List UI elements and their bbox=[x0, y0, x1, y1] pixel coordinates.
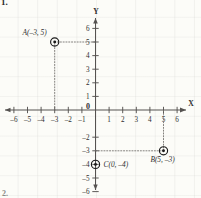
y-axis-ticks: 654321–2–3–4–5–6 bbox=[81, 25, 98, 196]
y-tick-label: –3 bbox=[81, 147, 90, 155]
point-A: A(–3, 5) bbox=[21, 28, 58, 46]
point-label-C: C(0, –4) bbox=[104, 160, 129, 169]
x-axis-arrow-right-icon bbox=[180, 108, 186, 113]
x-tick-label: –4 bbox=[37, 116, 46, 124]
x-tick-label: –1 bbox=[77, 116, 86, 124]
x-tick-label: 1 bbox=[107, 116, 111, 124]
point-marker-dot-B bbox=[162, 149, 165, 152]
coordinate-plane: X Y –6–5–4–3–2–1123456 654321–2–3–4–5–6 … bbox=[0, 0, 201, 198]
origin-label: 0 bbox=[86, 102, 90, 111]
y-tick-label: –2 bbox=[81, 134, 90, 142]
y-tick-label: 1 bbox=[86, 93, 90, 101]
y-axis-label: Y bbox=[93, 7, 99, 16]
point-label-A: A(–3, 5) bbox=[21, 28, 47, 37]
y-tick-label: –4 bbox=[81, 161, 90, 169]
x-axis-group: X bbox=[5, 99, 194, 112]
x-tick-label: –5 bbox=[23, 116, 32, 124]
x-tick-label: –3 bbox=[50, 116, 59, 124]
y-axis-arrow-down-icon bbox=[93, 185, 97, 190]
point-B: B(5, –3) bbox=[150, 147, 175, 164]
y-tick-label: 3 bbox=[86, 66, 90, 74]
y-tick-label: 6 bbox=[86, 25, 90, 33]
y-tick-label: –6 bbox=[81, 188, 90, 196]
point-marker-dot-A bbox=[53, 41, 56, 44]
y-axis-group: Y bbox=[93, 7, 99, 190]
y-tick-label: 2 bbox=[86, 79, 90, 87]
y-tick-label: 4 bbox=[86, 52, 90, 60]
x-tick-label: 4 bbox=[148, 116, 152, 124]
guide-lines bbox=[55, 42, 164, 151]
y-tick-label: 5 bbox=[86, 39, 90, 47]
point-marker-dot-C bbox=[94, 163, 97, 166]
x-tick-label: –6 bbox=[9, 116, 18, 124]
x-axis-label: X bbox=[188, 99, 194, 108]
y-tick-label: –5 bbox=[81, 175, 90, 183]
x-tick-label: 3 bbox=[135, 116, 139, 124]
x-axis-ticks: –6–5–4–3–2–1123456 bbox=[9, 107, 179, 124]
x-axis-arrow-left-icon bbox=[5, 108, 11, 112]
plotted-points: A(–3, 5)B(5, –3)C(0, –4) bbox=[21, 28, 175, 169]
x-tick-label: 2 bbox=[121, 116, 125, 124]
y-axis-arrow-up-icon bbox=[93, 18, 98, 24]
x-tick-label: –2 bbox=[64, 116, 73, 124]
x-tick-label: 6 bbox=[175, 116, 179, 124]
point-label-B: B(5, –3) bbox=[150, 155, 175, 164]
worksheet-figure: 1. 2. X Y –6–5–4–3–2–1123456 654321–2–3–… bbox=[0, 0, 201, 198]
